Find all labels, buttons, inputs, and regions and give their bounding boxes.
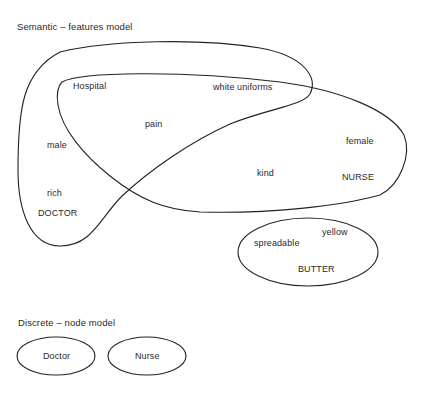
diagram-shapes: [0, 0, 421, 402]
concept-butter-label: BUTTER: [298, 264, 335, 274]
concept-doctor-label: DOCTOR: [38, 208, 77, 218]
node-doctor-label: Doctor: [43, 351, 70, 361]
feature-spreadable: spreadable: [254, 238, 300, 248]
feature-kind: kind: [257, 168, 274, 178]
concept-nurse-label: NURSE: [342, 172, 374, 182]
discrete-model-title: Discrete – node model: [18, 317, 115, 328]
feature-rich: rich: [47, 188, 62, 198]
feature-hospital: Hospital: [73, 81, 106, 91]
feature-male: male: [47, 140, 67, 150]
feature-white-uniforms: white uniforms: [213, 82, 272, 92]
feature-female: female: [346, 136, 374, 146]
feature-yellow: yellow: [322, 227, 348, 237]
butter-region-outline: [238, 218, 378, 286]
node-nurse-label: Nurse: [135, 351, 160, 361]
feature-pain: pain: [145, 119, 162, 129]
semantic-model-title: Semantic – features model: [17, 21, 133, 32]
